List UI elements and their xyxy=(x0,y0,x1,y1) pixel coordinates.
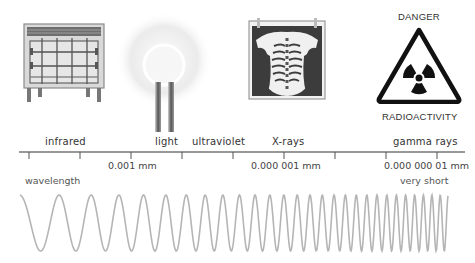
band-label-infrared: infrared xyxy=(45,136,86,147)
electric-heater-illustration xyxy=(22,22,106,104)
x-ray-icon xyxy=(248,18,326,100)
band-label-gamma-rays: gamma rays xyxy=(393,136,458,147)
tick-label-0-00000001-mm: 0.000 000 01 mm xyxy=(384,160,469,171)
light-glow-icon xyxy=(116,10,216,132)
tick-label-0-001-mm: 0.001 mm xyxy=(108,160,157,171)
band-label-ultraviolet: ultraviolet xyxy=(192,136,245,147)
radioactivity-label: RADIOACTIVITY xyxy=(382,111,457,122)
chest-x-ray-illustration xyxy=(248,18,326,100)
band-label-light: light xyxy=(155,136,178,147)
light-bulb-illustration xyxy=(116,10,216,132)
radiation-hazard-icon xyxy=(376,26,462,104)
very-short-caption: very short xyxy=(400,175,448,186)
wavelength-wave xyxy=(0,188,475,258)
danger-label: DANGER xyxy=(398,11,440,22)
wavelength-caption: wavelength xyxy=(25,175,80,186)
band-label-x-rays: X-rays xyxy=(272,136,305,147)
tick-label-0-000001-mm: 0.000 001 mm xyxy=(251,160,321,171)
radiation-warning-sign xyxy=(376,26,462,104)
heater-icon xyxy=(22,22,106,104)
chirp-wave-graphic xyxy=(0,188,475,258)
